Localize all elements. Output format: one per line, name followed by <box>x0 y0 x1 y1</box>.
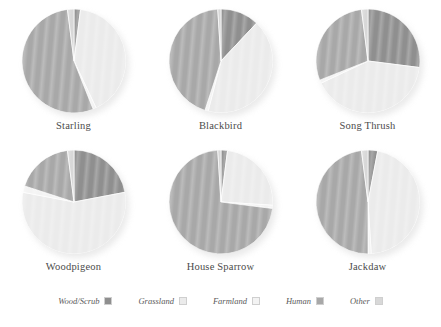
pie-starling[interactable] <box>22 9 126 113</box>
legend-label-other: Other <box>350 296 370 306</box>
pie-slice[interactable] <box>316 150 368 254</box>
pie-panel-blackbird: Blackbird <box>147 4 294 145</box>
pie-wrap <box>169 9 273 113</box>
pie-blackbird[interactable] <box>169 9 273 113</box>
legend-item-farmland[interactable]: Farmland <box>213 296 260 306</box>
legend-label-wood-scrub: Wood/Scrub <box>58 296 99 306</box>
pie-caption-jackdaw: Jackdaw <box>349 261 387 272</box>
legend-item-human[interactable]: Human <box>286 296 324 306</box>
legend-swatch-grassland <box>179 297 187 305</box>
pie-caption-woodpigeon: Woodpigeon <box>46 261 101 272</box>
pie-wrap <box>316 9 420 113</box>
pie-chart-figure: Starling Blackbird Song Thrush <box>0 0 441 327</box>
pie-panel-starling: Starling <box>0 4 147 145</box>
legend-swatch-farmland <box>252 297 260 305</box>
pie-jackdaw[interactable] <box>316 150 420 254</box>
pie-song-thrush[interactable] <box>316 9 420 113</box>
pie-wrap <box>22 150 126 254</box>
pie-slice[interactable] <box>221 150 273 205</box>
legend-swatch-other <box>375 297 383 305</box>
pie-woodpigeon[interactable] <box>22 150 126 254</box>
chart-legend: Wood/Scrub Grassland Farmland Human Othe… <box>0 296 441 306</box>
pie-wrap <box>169 150 273 254</box>
pie-wrap <box>22 9 126 113</box>
pie-panel-jackdaw: Jackdaw <box>294 145 441 286</box>
legend-item-wood-scrub[interactable]: Wood/Scrub <box>58 296 112 306</box>
pie-slice[interactable] <box>368 9 420 68</box>
legend-label-grassland: Grassland <box>138 296 173 306</box>
legend-label-farmland: Farmland <box>213 296 247 306</box>
pie-panel-house-sparrow: House Sparrow <box>147 145 294 286</box>
pie-panel-song-thrush: Song Thrush <box>294 4 441 145</box>
pie-slice[interactable] <box>368 151 420 254</box>
pie-chart-grid: Starling Blackbird Song Thrush <box>0 4 441 286</box>
pie-house-sparrow[interactable] <box>169 150 273 254</box>
legend-item-grassland[interactable]: Grassland <box>138 296 186 306</box>
pie-caption-starling: Starling <box>56 120 91 131</box>
pie-panel-woodpigeon: Woodpigeon <box>0 145 147 286</box>
legend-item-other[interactable]: Other <box>350 296 383 306</box>
legend-swatch-wood-scrub <box>104 297 112 305</box>
legend-swatch-human <box>316 297 324 305</box>
pie-caption-song-thrush: Song Thrush <box>340 120 396 131</box>
pie-caption-blackbird: Blackbird <box>199 120 242 131</box>
pie-caption-house-sparrow: House Sparrow <box>187 261 255 272</box>
pie-wrap <box>316 150 420 254</box>
legend-label-human: Human <box>286 296 311 306</box>
